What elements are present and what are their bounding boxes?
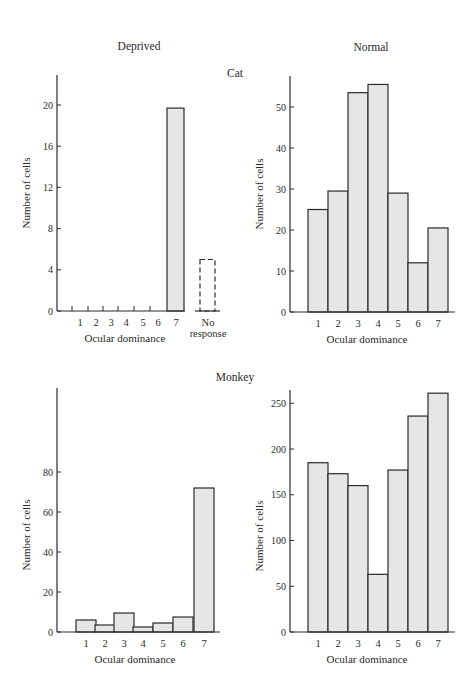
column-title-normal: Normal <box>353 41 388 53</box>
y-tick-label: 60 <box>43 507 53 518</box>
x-axis-title: Ocular dominance <box>327 333 408 345</box>
bar-1 <box>76 620 96 632</box>
ocular-dominance-figure: Deprived Normal Cat Monkey 0481216201234… <box>0 0 469 699</box>
x-tick-label: 1 <box>315 318 320 329</box>
row-label-cat: Cat <box>227 67 244 79</box>
bar-1 <box>308 463 328 632</box>
x-tick-label: 2 <box>335 318 340 329</box>
bar-6 <box>408 263 428 312</box>
column-title-deprived: Deprived <box>118 40 161 53</box>
y-tick-label: 50 <box>276 102 286 113</box>
chart-monkey-normal: 0501001502002501234567Ocular dominanceNu… <box>253 390 455 665</box>
y-tick-label: 16 <box>43 141 53 152</box>
chart-cat-normal: 010203040501234567Ocular dominanceNumber… <box>253 76 455 345</box>
bar-no-response <box>200 260 215 312</box>
x-tick-label: 1 <box>315 638 320 649</box>
x-tick-label: 7 <box>201 638 206 649</box>
y-axis-title: Number of cells <box>20 500 32 571</box>
y-tick-label: 20 <box>276 225 286 236</box>
y-tick-label: 30 <box>276 184 286 195</box>
bar-7 <box>428 228 448 312</box>
x-tick-label: 2 <box>93 317 98 328</box>
bar-2 <box>328 191 348 312</box>
x-axis-title: Ocular dominance <box>95 653 176 665</box>
bar-3 <box>114 613 134 632</box>
x-tick-label: 5 <box>395 638 400 649</box>
x-tick-label: 6 <box>415 318 420 329</box>
x-axis-title: Ocular dominance <box>327 653 408 665</box>
y-tick-label: 0 <box>281 627 286 638</box>
x-tick-label: 7 <box>435 318 440 329</box>
x-tick-label: 2 <box>335 638 340 649</box>
y-tick-label: 10 <box>276 266 286 277</box>
y-tick-label: 40 <box>43 547 53 558</box>
x-tick-label: 5 <box>395 318 400 329</box>
row-label-monkey: Monkey <box>216 371 255 384</box>
y-tick-label: 12 <box>43 182 53 193</box>
bar-3 <box>348 486 368 632</box>
y-tick-label: 4 <box>48 264 53 275</box>
y-tick-label: 200 <box>271 444 286 455</box>
y-tick-label: 20 <box>43 100 53 111</box>
x-tick-label: 3 <box>355 318 360 329</box>
bar-7 <box>194 488 214 632</box>
y-tick-label: 0 <box>281 307 286 318</box>
bar-4 <box>368 574 388 632</box>
y-axis-title: Number of cells <box>253 501 265 572</box>
y-tick-label: 20 <box>43 587 53 598</box>
x-tick-label: 4 <box>375 318 381 329</box>
bar-2 <box>328 474 348 632</box>
y-tick-label: 250 <box>271 398 286 409</box>
x-tick-label: 4 <box>375 638 381 649</box>
y-tick-label: 8 <box>48 223 53 234</box>
bar-7 <box>167 108 184 311</box>
bar-6 <box>408 416 428 632</box>
bar-5 <box>153 623 173 632</box>
y-tick-label: 80 <box>43 467 53 478</box>
x-tick-label: 7 <box>173 317 178 328</box>
y-tick-label: 150 <box>271 489 286 500</box>
x-tick-label: 3 <box>108 317 113 328</box>
y-tick-label: 50 <box>276 581 286 592</box>
y-axis-title: Number of cells <box>253 159 265 230</box>
x-tick-label: 1 <box>77 317 82 328</box>
x-tick-label: 4 <box>123 317 129 328</box>
figure-canvas: Deprived Normal Cat Monkey 0481216201234… <box>0 0 469 699</box>
x-tick-label: 6 <box>155 317 160 328</box>
x-tick-label: 3 <box>355 638 360 649</box>
x-tick-label: 3 <box>121 638 126 649</box>
chart-monkey-deprived: 0204060801234567Ocular dominanceNumber o… <box>20 388 220 665</box>
chart-cat-deprived: 0481216201234567Ocular dominanceNumber o… <box>20 75 227 344</box>
y-tick-label: 40 <box>276 143 286 154</box>
bar-4 <box>368 84 388 312</box>
bar-2 <box>95 625 115 632</box>
y-tick-label: 100 <box>271 535 286 546</box>
bar-6 <box>173 617 193 632</box>
x-tick-label: 4 <box>140 638 146 649</box>
x-tick-label: 2 <box>102 638 107 649</box>
y-tick-label: 0 <box>48 306 53 317</box>
x-tick-label: 7 <box>435 638 440 649</box>
y-axis-title: Number of cells <box>20 158 32 229</box>
x-tick-label: 6 <box>180 638 185 649</box>
x-tick-label: 1 <box>83 638 88 649</box>
no-response-label: No <box>202 317 215 328</box>
y-tick-label: 0 <box>48 627 53 638</box>
x-tick-label: 5 <box>140 317 145 328</box>
x-tick-label: 5 <box>160 638 165 649</box>
bar-7 <box>428 393 448 632</box>
bar-4 <box>133 627 153 632</box>
bar-5 <box>388 470 408 632</box>
no-response-label: response <box>190 328 227 339</box>
x-axis-title: Ocular dominance <box>85 332 166 344</box>
bar-5 <box>388 193 408 312</box>
bar-1 <box>308 210 328 313</box>
bar-3 <box>348 93 368 312</box>
x-tick-label: 6 <box>415 638 420 649</box>
